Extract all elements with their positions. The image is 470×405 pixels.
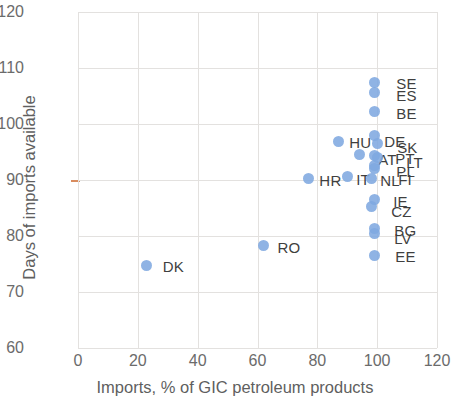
data-point-marker[interactable]: [141, 260, 152, 271]
gridline-vertical: [377, 12, 378, 348]
data-point-label: NL: [380, 172, 400, 189]
x-axis-tick-label: 120: [407, 352, 467, 370]
data-point-marker[interactable]: [366, 201, 377, 212]
gridline-horizontal: [78, 348, 437, 349]
gridline-vertical: [138, 12, 139, 348]
data-point-marker[interactable]: [369, 228, 380, 239]
x-axis-tick-label: 60: [228, 352, 288, 370]
data-point-marker[interactable]: [303, 173, 314, 184]
data-point-label: HR: [319, 172, 341, 189]
data-point-marker[interactable]: [366, 173, 377, 184]
data-point-marker[interactable]: [369, 106, 380, 117]
data-point-label: RO: [277, 239, 300, 256]
data-point-marker[interactable]: [258, 240, 269, 251]
data-point-label: ES: [396, 87, 416, 104]
x-axis-tick-label: 40: [168, 352, 228, 370]
x-axis-tick-label: 0: [48, 352, 108, 370]
y-axis-title: Days of imports available: [20, 63, 39, 313]
x-axis-tick-label: 20: [108, 352, 168, 370]
x-axis-tick-label: 80: [287, 352, 347, 370]
gridline-vertical: [198, 12, 199, 348]
x-axis-tick-label: 100: [347, 352, 407, 370]
data-point-marker[interactable]: [333, 136, 344, 147]
data-point-label: LV: [394, 230, 412, 247]
gridline-vertical: [258, 12, 259, 348]
data-point-marker[interactable]: [354, 149, 365, 160]
gridline-vertical: [78, 12, 79, 348]
plot-area: SEESBEHUDESKATPTLTPLFIHRITNLIECZBGLVEERO…: [78, 12, 437, 348]
y-axis-tick-label: 60: [0, 339, 24, 357]
data-point-label: EE: [395, 248, 415, 265]
x-axis-title: Imports, % of GIC petroleum products: [0, 378, 470, 397]
data-point-marker[interactable]: [369, 250, 380, 261]
data-point-marker[interactable]: [372, 138, 383, 149]
data-point-label: CZ: [391, 203, 411, 220]
data-point-label: DK: [163, 258, 184, 275]
y-axis-tick-label: 120: [0, 3, 24, 21]
scatter-chart: 60708090100110120 020406080100120 SEESBE…: [0, 0, 470, 405]
data-point-label: BE: [396, 105, 416, 122]
data-point-marker[interactable]: [369, 87, 380, 98]
data-point-label: FI: [398, 171, 412, 188]
data-point-marker[interactable]: [342, 171, 353, 182]
gridline-vertical: [437, 12, 438, 348]
gridline-vertical: [317, 12, 318, 348]
